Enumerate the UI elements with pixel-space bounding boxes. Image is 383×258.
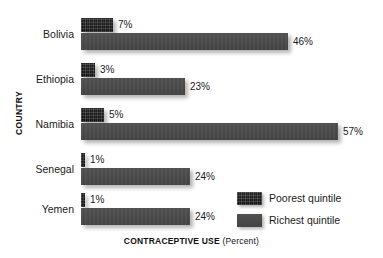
bar-richest [81, 123, 338, 140]
bar-value-label: 46% [293, 36, 313, 48]
chart-legend: Poorest quintile Richest quintile [237, 189, 383, 233]
bar-poorest [81, 193, 85, 207]
bar-value-label: 24% [195, 211, 215, 223]
bar-richest [81, 33, 288, 50]
bar-poorest [81, 153, 85, 167]
category-label: Bolivia [0, 28, 74, 40]
legend-swatch-icon [237, 192, 262, 205]
x-axis-title: CONTRACEPTIVE USE (Percent) [0, 236, 383, 246]
bar-rect-poorest [81, 153, 85, 167]
bar-group-bolivia: Bolivia 7% 46% [0, 14, 383, 52]
bar-value-label: 24% [195, 171, 215, 183]
x-axis-title-main: CONTRACEPTIVE USE [124, 236, 220, 246]
bar-rect-richest [81, 168, 190, 185]
category-label: Ethiopia [0, 73, 74, 85]
bar-group-ethiopia: Ethiopia 3% 23% [0, 59, 383, 97]
bar-richest [81, 168, 190, 185]
legend-label: Richest quintile [269, 214, 340, 227]
bar-richest [81, 78, 185, 95]
legend-item-poorest[interactable]: Poorest quintile [237, 189, 383, 207]
bar-rect-poorest [81, 193, 85, 207]
bar-rect-richest [81, 208, 190, 225]
bar-chart: COUNTRY Bolivia 7% 46% Ethiopia 3% 23% [0, 0, 383, 258]
bar-poorest [81, 108, 104, 122]
bar-value-label: 57% [343, 126, 363, 138]
legend-swatch-icon [237, 214, 262, 227]
bar-value-label: 1% [90, 194, 104, 206]
bar-rect-poorest [81, 18, 113, 32]
bar-rect-poorest [81, 108, 104, 122]
bar-value-label: 1% [90, 154, 104, 166]
legend-item-richest[interactable]: Richest quintile [237, 211, 383, 229]
bar-value-label: 5% [109, 109, 123, 121]
bar-poorest [81, 63, 95, 77]
bar-rect-poorest [81, 63, 95, 77]
bar-value-label: 3% [100, 64, 114, 76]
bar-value-label: 7% [118, 19, 132, 31]
bar-value-label: 23% [190, 81, 210, 93]
bar-poorest [81, 18, 113, 32]
bar-rect-richest [81, 33, 288, 50]
bar-group-senegal: Senegal 1% 24% [0, 149, 383, 187]
category-label: Yemen [0, 203, 74, 215]
category-label: Namibia [0, 118, 74, 130]
category-label: Senegal [0, 163, 74, 175]
bar-richest [81, 208, 190, 225]
bar-rect-richest [81, 123, 338, 140]
x-axis-title-unit: (Percent) [222, 236, 259, 246]
bar-rect-richest [81, 78, 185, 95]
bar-group-namibia: Namibia 5% 57% [0, 104, 383, 142]
legend-label: Poorest quintile [269, 192, 341, 205]
